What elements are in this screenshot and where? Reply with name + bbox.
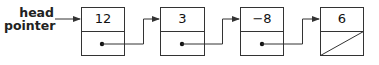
node-2-value: 3 xyxy=(160,11,205,27)
node-3-value: −8 xyxy=(240,11,284,27)
diagram-canvas xyxy=(0,0,379,65)
head-pointer-label: head pointer xyxy=(4,6,54,32)
node-4-value: 6 xyxy=(320,11,364,27)
head-label-line-2: pointer xyxy=(4,19,54,32)
node-1-value: 12 xyxy=(81,11,125,27)
